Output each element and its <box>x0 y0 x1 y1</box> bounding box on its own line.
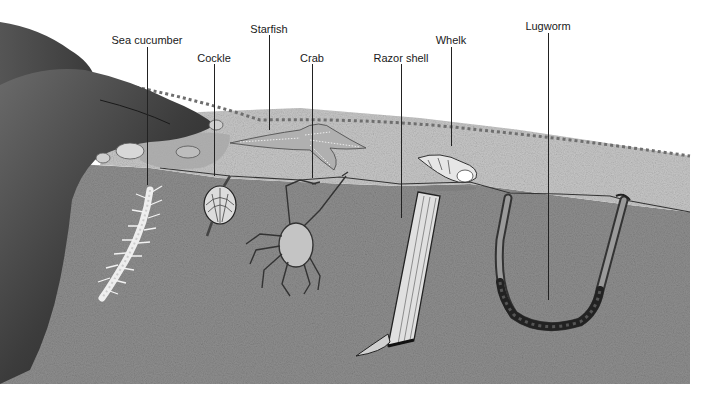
label-whelk: Whelk <box>436 34 467 46</box>
label-starfish: Starfish <box>250 23 287 35</box>
label-razor-shell: Razor shell <box>373 52 428 64</box>
leader-line-razor-shell <box>401 64 402 218</box>
leader-line-lugworm <box>548 33 549 300</box>
leader-line-crab <box>312 64 313 178</box>
label-cockle: Cockle <box>197 52 231 64</box>
leader-line-starfish <box>269 35 270 130</box>
label-crab: Crab <box>300 52 324 64</box>
leader-line-whelk <box>451 47 452 146</box>
leader-line-cockle <box>214 64 215 176</box>
label-sea-cucumber: Sea cucumber <box>112 34 183 46</box>
shore-cross-section-illustration <box>0 0 711 402</box>
label-lugworm: Lugworm <box>525 20 570 32</box>
leader-line-sea-cucumber <box>147 47 148 185</box>
